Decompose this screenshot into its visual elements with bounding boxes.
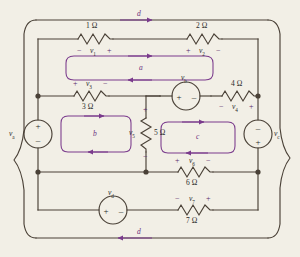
mesh-c-label: c <box>196 133 199 141</box>
wire-network <box>14 20 290 238</box>
v3-left-polarity: + <box>73 80 78 88</box>
v2-left-polarity: + <box>186 47 191 55</box>
mesh-a-left-edge <box>66 56 74 80</box>
mesh-c-left-edge <box>161 122 168 153</box>
resistor-2ohm-symbol <box>187 34 222 44</box>
resistor-4ohm-label: 4 Ω <box>231 80 242 88</box>
junction-dots <box>35 93 260 174</box>
resistor-2ohm-label: 2 Ω <box>196 22 207 30</box>
mesh-c-right-edge <box>228 122 235 153</box>
junction-dot-right-mid <box>255 93 260 98</box>
v5-top-polarity: + <box>143 106 148 114</box>
mesh-a-label: a <box>139 64 143 72</box>
v4-left-polarity: − <box>219 103 224 111</box>
junction-dot-left-lower <box>35 169 40 174</box>
circuit-diagram: + – + – – + + – 1 Ω − v1 + 2 Ω + v2 − + … <box>0 0 300 257</box>
mesh-d-top-label: d <box>137 10 141 18</box>
resistor-7ohm-label: 7 Ω <box>186 217 197 225</box>
resistor-5ohm-symbol <box>141 118 151 152</box>
resistor-4ohm-symbol <box>222 91 258 101</box>
v1-right-polarity: + <box>107 47 112 55</box>
vd-plus-glyph: + <box>103 206 108 216</box>
v6-label: v6 <box>189 157 195 167</box>
v3-label: v3 <box>86 80 92 90</box>
vc-plus-glyph: + <box>255 137 260 147</box>
resistor-7ohm-symbol <box>178 205 213 215</box>
v2-right-polarity: − <box>216 47 221 55</box>
mesh-b-label: b <box>93 130 97 138</box>
resistor-6ohm-symbol <box>178 167 213 177</box>
mesh-d-bottom-label: d <box>137 228 141 236</box>
junction-dot-left-mid <box>35 93 40 98</box>
v5-bottom-polarity: − <box>143 153 148 161</box>
v6-right-polarity: − <box>206 157 211 165</box>
source-vc-label: vc <box>274 130 280 140</box>
resistor-1ohm-label: 1 Ω <box>86 22 97 30</box>
source-vd-label: vd <box>108 189 114 199</box>
va-minus-glyph: – <box>35 135 41 145</box>
resistor-3ohm-label: 3 Ω <box>82 103 93 111</box>
v5-label: v5 <box>129 129 135 139</box>
mesh-b-left-edge <box>61 116 68 152</box>
v7-right-polarity: + <box>206 195 211 203</box>
resistor-5ohm-label: 5 Ω <box>154 129 165 137</box>
v7-label: v7 <box>189 195 195 205</box>
v1-left-polarity: − <box>77 47 82 55</box>
va-plus-glyph: + <box>35 121 40 131</box>
vb-plus-glyph: + <box>176 92 181 102</box>
vd-minus-glyph: – <box>118 206 124 216</box>
junction-dot-right-lower <box>255 169 260 174</box>
v4-label: v4 <box>232 103 238 113</box>
resistor-6ohm-label: 6 Ω <box>186 179 197 187</box>
v7-left-polarity: − <box>175 195 180 203</box>
v2-label: v2 <box>199 47 205 57</box>
source-vb-label: vb <box>181 74 187 84</box>
vb-minus-glyph: – <box>191 92 197 102</box>
circuit-schematic-svg: + – + – – + + – <box>0 0 300 257</box>
v4-right-polarity: + <box>249 103 254 111</box>
v1-label: v1 <box>90 47 96 57</box>
v3-right-polarity: − <box>103 80 108 88</box>
resistor-1ohm-symbol <box>78 34 113 44</box>
junction-dot-center-lower <box>143 169 148 174</box>
mesh-a-right-edge <box>205 56 213 80</box>
vc-minus-glyph: – <box>255 123 261 133</box>
resistor-3ohm-symbol <box>74 91 109 101</box>
source-va-label: va <box>9 130 15 140</box>
v6-left-polarity: + <box>175 157 180 165</box>
